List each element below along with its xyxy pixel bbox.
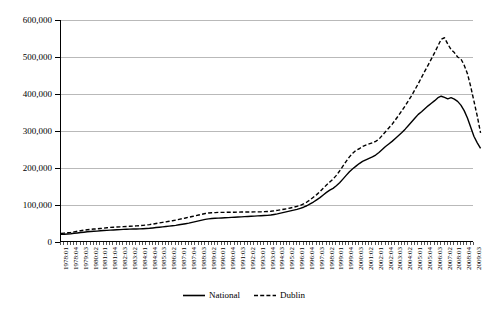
x-tick-mark xyxy=(90,242,91,245)
x-tick-label: 2002:01 xyxy=(378,247,385,270)
x-tick-mark xyxy=(312,242,313,245)
x-tick-mark xyxy=(329,242,330,245)
x-tick-mark xyxy=(263,242,264,245)
x-tick-mark xyxy=(362,242,363,245)
x-tick-mark xyxy=(296,242,297,245)
x-tick-mark xyxy=(237,242,238,245)
x-tick-mark xyxy=(371,242,372,245)
legend-label: Dublin xyxy=(280,291,305,300)
x-tick-label: 1978:04 xyxy=(73,247,80,270)
x-tick-mark xyxy=(473,242,474,245)
x-tick-mark xyxy=(342,242,343,245)
x-tick-mark xyxy=(375,242,376,245)
x-tick-mark xyxy=(162,242,163,245)
x-tick-mark xyxy=(450,242,451,245)
x-tick-mark xyxy=(299,242,300,245)
x-tick-mark xyxy=(447,242,448,245)
x-tick-mark xyxy=(437,242,438,245)
x-tick-label: 1979:03 xyxy=(83,247,90,270)
x-tick-mark xyxy=(407,242,408,245)
x-tick-mark xyxy=(319,242,320,245)
x-tick-mark xyxy=(178,242,179,245)
x-tick-mark xyxy=(388,242,389,245)
x-tick-mark xyxy=(244,242,245,245)
x-tick-mark xyxy=(175,242,176,245)
x-tick-mark xyxy=(112,242,113,245)
x-tick-mark xyxy=(326,242,327,245)
x-tick-mark xyxy=(303,242,304,245)
y-tick-label: 600,000 xyxy=(23,16,52,25)
x-tick-mark xyxy=(96,242,97,245)
x-tick-mark xyxy=(204,242,205,245)
x-tick-mark xyxy=(391,242,392,245)
x-tick-mark xyxy=(365,242,366,245)
x-tick-mark xyxy=(345,242,346,245)
series-container xyxy=(61,20,474,242)
x-tick-label: 2007:02 xyxy=(447,247,454,270)
x-tick-mark xyxy=(460,242,461,245)
series-line-dublin xyxy=(61,38,481,234)
x-tick-label: 1991:03 xyxy=(240,247,247,270)
x-tick-label: 2008:04 xyxy=(466,247,473,270)
x-tick-label: 1996:04 xyxy=(309,247,316,270)
x-tick-mark xyxy=(103,242,104,245)
x-tick-mark xyxy=(181,242,182,245)
x-tick-mark xyxy=(83,242,84,245)
x-tick-label: 1994:03 xyxy=(279,247,286,270)
x-tick-mark xyxy=(453,242,454,245)
x-tick-label: 1978:01 xyxy=(63,247,70,270)
x-tick-label: 1996:01 xyxy=(299,247,306,270)
x-tick-mark xyxy=(67,242,68,245)
x-tick-mark xyxy=(230,242,231,245)
x-tick-mark xyxy=(116,242,117,245)
x-tick-label: 1986:02 xyxy=(171,247,178,270)
x-tick-mark xyxy=(70,242,71,245)
x-tick-label: 2006:03 xyxy=(437,247,444,270)
x-tick-mark xyxy=(309,242,310,245)
x-tick-mark xyxy=(424,242,425,245)
x-tick-label: 1981:04 xyxy=(112,247,119,270)
x-tick-mark xyxy=(185,242,186,245)
series-line-national xyxy=(61,96,481,234)
x-tick-mark xyxy=(381,242,382,245)
x-tick-mark xyxy=(368,242,369,245)
x-tick-mark xyxy=(417,242,418,245)
x-tick-mark xyxy=(152,242,153,245)
x-tick-mark xyxy=(194,242,195,245)
x-tick-mark xyxy=(214,242,215,245)
x-tick-mark xyxy=(378,242,379,245)
x-tick-label: 1983:02 xyxy=(132,247,139,270)
x-tick-mark xyxy=(394,242,395,245)
x-tick-mark xyxy=(227,242,228,245)
x-tick-mark xyxy=(132,242,133,245)
x-tick-mark xyxy=(283,242,284,245)
x-tick-label: 1990:04 xyxy=(230,247,237,270)
x-tick-label: 1987:04 xyxy=(191,247,198,270)
x-tick-mark xyxy=(129,242,130,245)
x-tick-mark xyxy=(339,242,340,245)
chart-legend: NationalDublin xyxy=(0,291,488,300)
x-tick-label: 1999:01 xyxy=(338,247,345,270)
plot-area xyxy=(60,20,473,242)
x-tick-mark xyxy=(352,242,353,245)
x-tick-mark xyxy=(63,242,64,245)
legend-item-national: National xyxy=(183,291,240,300)
x-tick-mark xyxy=(73,242,74,245)
x-tick-label: 2000:03 xyxy=(358,247,365,270)
y-tick-label: 300,000 xyxy=(23,127,52,136)
x-tick-mark xyxy=(289,242,290,245)
x-tick-label: 1989:02 xyxy=(211,247,218,270)
x-tick-mark xyxy=(398,242,399,245)
x-tick-mark xyxy=(260,242,261,245)
x-tick-mark xyxy=(440,242,441,245)
x-tick-mark xyxy=(126,242,127,245)
x-tick-mark xyxy=(93,242,94,245)
x-tick-mark xyxy=(316,242,317,245)
x-tick-mark xyxy=(188,242,189,245)
x-tick-label: 1987:01 xyxy=(181,247,188,270)
x-tick-mark xyxy=(253,242,254,245)
x-tick-mark xyxy=(201,242,202,245)
x-tick-mark xyxy=(293,242,294,245)
x-tick-mark xyxy=(355,242,356,245)
x-tick-label: 1995:02 xyxy=(289,247,296,270)
